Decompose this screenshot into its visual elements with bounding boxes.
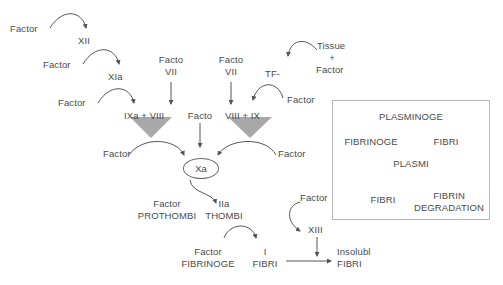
label-box-fibrinogen: FIBRINOGE — [344, 136, 397, 148]
label-insoluble-fibrin: FIBRI — [337, 258, 362, 270]
label-tissue-factor: Factor — [316, 64, 344, 76]
label-fdp-line2: DEGRADATION — [414, 202, 484, 214]
arrow-factor-to-ixa — [98, 89, 134, 103]
label-factor-ix-source: Factor — [58, 97, 86, 109]
label-plasmin: PLASMI — [393, 158, 428, 170]
label-thrombin: THOMBI — [205, 210, 243, 222]
node-factor-xa: Xa — [183, 158, 219, 179]
label-facto-vii-left-line2: VII — [165, 66, 177, 78]
label-factor-xii-source: Factor — [10, 23, 38, 35]
arrow-factor-to-xiii — [290, 202, 301, 231]
label-tissue: Tissue — [317, 40, 345, 52]
label-plasminogen: PLASMINOGE — [379, 111, 443, 123]
label-factor-prothrombin-source: Factor — [153, 198, 181, 210]
label-box-fibrin: FIBRI — [434, 136, 459, 148]
arrow-factor-to-xia — [83, 50, 119, 64]
label-facto-vii-left-line1: Facto — [159, 54, 183, 66]
label-facto-vii-right-line1: Facto — [219, 54, 243, 66]
label-tissue-factor-tf: TF- — [265, 68, 280, 80]
label-factor-common-left: Factor — [103, 148, 131, 160]
arrow-thrombin-to-fibrin — [224, 226, 256, 238]
coagulation-cascade-diagram: Factor XII Factor XIa Factor IXa + VIII … — [0, 0, 503, 285]
label-prothrombin: PROTHOMBI — [138, 210, 196, 222]
arrow-tissue-to-tf — [288, 41, 317, 56]
label-factor-common-right: Factor — [278, 148, 306, 160]
label-box-fibrin-substrate: FIBRI — [371, 194, 396, 206]
arrow-factor-left-to-xa — [129, 141, 184, 155]
label-factor-extrinsic-right: Factor — [287, 94, 315, 106]
label-factor-xi-source: Factor — [43, 59, 71, 71]
label-fibrinogen: FIBRINOGE — [181, 258, 234, 270]
label-factor-fibrinogen-source: Factor — [194, 246, 222, 258]
label-ixa-viii-complex: IXa + VIII — [124, 110, 164, 122]
arrow-xa-to-thrombin — [190, 180, 216, 203]
label-iia: IIa — [219, 198, 230, 210]
arrow-factor-to-viiiix — [253, 85, 283, 100]
label-factor-i: I — [264, 246, 267, 258]
label-tissue-plus: + — [329, 52, 335, 64]
label-factor-xiii: XIII — [308, 224, 323, 236]
label-fibrin: FIBRI — [253, 258, 278, 270]
label-facto-center: Facto — [188, 110, 212, 122]
label-fdp-line1: FIBRIN — [433, 190, 465, 202]
arrow-factor-to-xii — [50, 14, 86, 28]
label-factor-xii: XII — [78, 35, 90, 47]
arrow-factor-right-to-xa — [218, 141, 276, 155]
label-factor-xiii-source: Factor — [300, 192, 328, 204]
label-viii-ix-complex: VIII + IX — [225, 110, 260, 122]
label-insoluble: Insolubl — [337, 246, 371, 258]
label-facto-vii-right-line2: VII — [225, 66, 237, 78]
label-factor-xia: XIa — [108, 71, 123, 83]
